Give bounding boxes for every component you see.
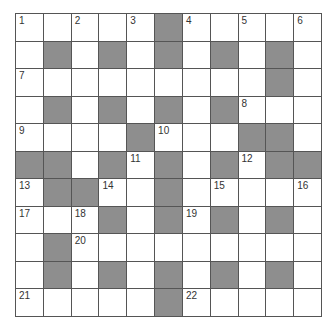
- answer-cell[interactable]: 15: [211, 179, 238, 206]
- answer-cell[interactable]: [266, 179, 293, 206]
- answer-cell[interactable]: 5: [239, 14, 266, 41]
- answer-cell[interactable]: 9: [16, 124, 43, 151]
- answer-cell[interactable]: [211, 234, 238, 261]
- answer-cell[interactable]: 2: [72, 14, 99, 41]
- answer-cell[interactable]: [127, 69, 154, 96]
- answer-cell[interactable]: [127, 207, 154, 234]
- answer-cell[interactable]: [211, 69, 238, 96]
- block-cell: [44, 234, 71, 261]
- answer-cell[interactable]: [44, 289, 71, 316]
- answer-cell[interactable]: [239, 179, 266, 206]
- answer-cell[interactable]: [127, 97, 154, 124]
- answer-cell[interactable]: [16, 42, 43, 69]
- answer-cell[interactable]: [183, 42, 210, 69]
- answer-cell[interactable]: 19: [183, 207, 210, 234]
- answer-cell[interactable]: [183, 179, 210, 206]
- answer-cell[interactable]: [266, 289, 293, 316]
- block-cell: [44, 262, 71, 289]
- answer-cell[interactable]: [183, 152, 210, 179]
- answer-cell[interactable]: [72, 262, 99, 289]
- answer-cell[interactable]: [16, 97, 43, 124]
- answer-cell[interactable]: [72, 69, 99, 96]
- answer-cell[interactable]: [239, 234, 266, 261]
- answer-cell[interactable]: [239, 42, 266, 69]
- answer-cell[interactable]: [266, 97, 293, 124]
- answer-cell[interactable]: 4: [183, 14, 210, 41]
- answer-cell[interactable]: [211, 14, 238, 41]
- answer-cell[interactable]: [127, 289, 154, 316]
- answer-cell[interactable]: 3: [127, 14, 154, 41]
- answer-cell[interactable]: [294, 262, 321, 289]
- block-cell: [211, 262, 238, 289]
- answer-cell[interactable]: [183, 124, 210, 151]
- answer-cell[interactable]: [266, 234, 293, 261]
- answer-cell[interactable]: [155, 69, 182, 96]
- answer-cell[interactable]: [294, 69, 321, 96]
- answer-cell[interactable]: 16: [294, 179, 321, 206]
- answer-cell[interactable]: [183, 69, 210, 96]
- answer-cell[interactable]: [239, 207, 266, 234]
- answer-cell[interactable]: [16, 234, 43, 261]
- answer-cell[interactable]: [72, 42, 99, 69]
- answer-cell[interactable]: [44, 14, 71, 41]
- answer-cell[interactable]: [294, 207, 321, 234]
- answer-cell[interactable]: 7: [16, 69, 43, 96]
- clue-number: 22: [186, 291, 197, 301]
- block-cell: [211, 152, 238, 179]
- clue-number: 19: [186, 209, 197, 219]
- answer-cell[interactable]: [183, 234, 210, 261]
- clue-number: 8: [242, 99, 248, 109]
- block-cell: [99, 42, 126, 69]
- answer-cell[interactable]: [44, 207, 71, 234]
- answer-cell[interactable]: [239, 69, 266, 96]
- answer-cell[interactable]: [183, 97, 210, 124]
- answer-cell[interactable]: [99, 14, 126, 41]
- answer-cell[interactable]: [99, 124, 126, 151]
- answer-cell[interactable]: [44, 124, 71, 151]
- answer-cell[interactable]: [211, 289, 238, 316]
- answer-cell[interactable]: 18: [72, 207, 99, 234]
- answer-cell[interactable]: 20: [72, 234, 99, 261]
- answer-cell[interactable]: [99, 69, 126, 96]
- block-cell: [72, 179, 99, 206]
- answer-cell[interactable]: [239, 289, 266, 316]
- answer-cell[interactable]: [294, 234, 321, 261]
- crossword-grid: 12345678910111213141516171819202122: [15, 13, 322, 317]
- answer-cell[interactable]: [16, 262, 43, 289]
- answer-cell[interactable]: 11: [127, 152, 154, 179]
- answer-cell[interactable]: [72, 289, 99, 316]
- answer-cell[interactable]: [44, 69, 71, 96]
- answer-cell[interactable]: [99, 289, 126, 316]
- answer-cell[interactable]: [294, 289, 321, 316]
- answer-cell[interactable]: 6: [294, 14, 321, 41]
- answer-cell[interactable]: 17: [16, 207, 43, 234]
- answer-cell[interactable]: 1: [16, 14, 43, 41]
- answer-cell[interactable]: [239, 262, 266, 289]
- answer-cell[interactable]: [127, 179, 154, 206]
- answer-cell[interactable]: [183, 262, 210, 289]
- answer-cell[interactable]: [266, 14, 293, 41]
- answer-cell[interactable]: 8: [239, 97, 266, 124]
- answer-cell[interactable]: [127, 42, 154, 69]
- answer-cell[interactable]: [72, 97, 99, 124]
- answer-cell[interactable]: [127, 262, 154, 289]
- answer-cell[interactable]: 21: [16, 289, 43, 316]
- clue-number: 10: [158, 126, 169, 136]
- answer-cell[interactable]: [294, 97, 321, 124]
- clue-number: 2: [75, 16, 81, 26]
- block-cell: [155, 289, 182, 316]
- answer-cell[interactable]: [294, 124, 321, 151]
- block-cell: [211, 42, 238, 69]
- answer-cell[interactable]: [127, 234, 154, 261]
- answer-cell[interactable]: 10: [155, 124, 182, 151]
- answer-cell[interactable]: [294, 42, 321, 69]
- answer-cell[interactable]: 13: [16, 179, 43, 206]
- answer-cell[interactable]: [72, 124, 99, 151]
- answer-cell[interactable]: 22: [183, 289, 210, 316]
- answer-cell[interactable]: [155, 234, 182, 261]
- answer-cell[interactable]: 12: [239, 152, 266, 179]
- answer-cell[interactable]: [72, 152, 99, 179]
- answer-cell[interactable]: [99, 234, 126, 261]
- answer-cell[interactable]: 14: [99, 179, 126, 206]
- answer-cell[interactable]: [211, 124, 238, 151]
